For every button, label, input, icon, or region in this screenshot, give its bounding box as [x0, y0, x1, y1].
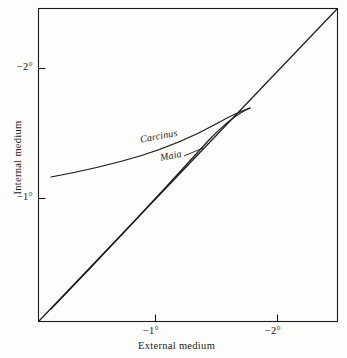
- chart-figure: −2° −1° −1° −2° Internal medium External…: [0, 0, 347, 358]
- x-axis-tick-label-minus-1: −1°: [143, 325, 159, 336]
- x-axis-tick-label-minus-2: −2°: [265, 325, 281, 336]
- plot-canvas: [0, 0, 347, 358]
- y-axis-title: Internal medium: [12, 103, 23, 213]
- y-axis-tick-label-minus-2: −2°: [17, 61, 33, 72]
- x-axis-title: External medium: [138, 340, 215, 351]
